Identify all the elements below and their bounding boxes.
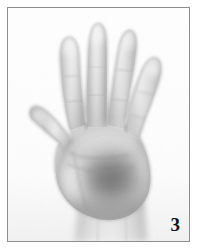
image-frame: 3 bbox=[7, 7, 190, 242]
figure-plate: 3 bbox=[0, 0, 199, 250]
figure-number-label: 3 bbox=[171, 215, 181, 234]
hand-photograph bbox=[8, 8, 189, 241]
print-grain bbox=[8, 8, 189, 241]
